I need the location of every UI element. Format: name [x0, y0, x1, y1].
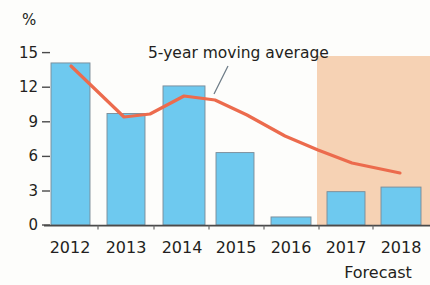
moving-average-bar-chart: % 15 12 9 6 3 0 — [0, 0, 430, 285]
x-tick-label-2015: 2015 — [216, 238, 257, 257]
bar-2016[interactable] — [271, 217, 311, 225]
y-tick-label-6: 6 — [28, 147, 38, 165]
y-axis-unit-label: % — [22, 11, 36, 29]
bar-2018[interactable] — [381, 187, 421, 225]
y-tick-label-9: 9 — [28, 113, 38, 131]
forecast-label: Forecast — [344, 263, 412, 282]
y-tick-label-0: 0 — [28, 216, 38, 234]
bar-2013[interactable] — [107, 114, 145, 225]
x-tick-label-2013: 2013 — [106, 238, 147, 257]
bar-2014[interactable] — [163, 86, 205, 225]
chart-container: % 15 12 9 6 3 0 — [0, 0, 430, 285]
bar-2015[interactable] — [216, 153, 254, 225]
x-tick-label-2018: 2018 — [381, 238, 422, 257]
x-tick-label-2012: 2012 — [50, 238, 91, 257]
x-tick-label-2014: 2014 — [162, 238, 203, 257]
moving-average-annotation-label: 5-year moving average — [148, 44, 329, 62]
x-tick-label-2016: 2016 — [271, 238, 312, 257]
x-tick-label-2017: 2017 — [326, 238, 367, 257]
y-tick-label-12: 12 — [19, 78, 38, 96]
y-tick-label-3: 3 — [28, 182, 38, 200]
bar-2017[interactable] — [327, 192, 365, 225]
y-tick-label-15: 15 — [19, 44, 38, 62]
bar-2012[interactable] — [51, 63, 90, 225]
